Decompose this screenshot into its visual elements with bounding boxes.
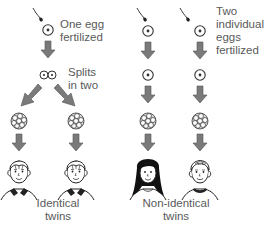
nonidentical-sperm-left-icon bbox=[137, 8, 148, 22]
nonidentical-cluster-right-icon bbox=[192, 113, 208, 129]
nonidentical-cell-right-icon bbox=[195, 70, 205, 80]
label-identical-twins: Identical twins bbox=[18, 197, 98, 223]
label-line: Non-identical bbox=[134, 197, 218, 210]
label-line: in two bbox=[68, 79, 98, 92]
nonidentical-arrow-3-left-icon bbox=[141, 134, 155, 151]
nonidentical-arrow-1-right-icon bbox=[193, 42, 207, 59]
identical-cluster-right-icon bbox=[68, 113, 84, 129]
nonidentical-arrow-3-right-icon bbox=[193, 134, 207, 151]
label-one-egg-fertilized: One egg fertilized bbox=[60, 18, 104, 44]
label-line: twins bbox=[18, 210, 98, 223]
nonidentical-cell-left-icon bbox=[143, 70, 153, 80]
identical-arrow-1-icon bbox=[41, 41, 55, 58]
identical-arrow-right-icon bbox=[69, 134, 83, 151]
identical-twin-right-icon bbox=[58, 161, 94, 200]
nonidentical-egg-left-icon bbox=[143, 26, 153, 36]
label-line: eggs bbox=[216, 31, 264, 44]
nonidentical-twin-boy-icon bbox=[182, 161, 218, 200]
nonidentical-cluster-left-icon bbox=[140, 113, 156, 129]
split-arrow-left-icon bbox=[21, 84, 42, 106]
identical-egg-icon bbox=[43, 25, 53, 35]
label-line: twins bbox=[134, 210, 218, 223]
label-splits-in-two: Splits in two bbox=[68, 66, 98, 92]
label-line: fertilized bbox=[216, 44, 264, 57]
nonidentical-arrow-1-left-icon bbox=[141, 42, 155, 59]
nonidentical-arrow-2-right-icon bbox=[193, 86, 207, 103]
label-line: fertilized bbox=[60, 31, 104, 44]
identical-twin-left-icon bbox=[1, 161, 37, 200]
nonidentical-arrow-2-left-icon bbox=[141, 86, 155, 103]
label-line: One egg bbox=[60, 18, 104, 31]
label-line: Identical bbox=[18, 197, 98, 210]
nonidentical-egg-right-icon bbox=[195, 26, 205, 36]
identical-sperm-icon bbox=[33, 8, 44, 22]
label-nonidentical-twins: Non-identical twins bbox=[134, 197, 218, 223]
nonidentical-twin-girl-icon bbox=[130, 159, 166, 200]
label-line: Two bbox=[216, 5, 264, 18]
label-line: Splits bbox=[68, 66, 98, 79]
label-two-eggs-fertilized: Two individual eggs fertilized bbox=[216, 5, 264, 57]
nonidentical-sperm-right-icon bbox=[180, 8, 191, 22]
identical-arrow-left-icon bbox=[12, 134, 26, 151]
identical-cluster-left-icon bbox=[11, 113, 27, 129]
label-line: individual bbox=[216, 18, 264, 31]
split-egg-icon bbox=[40, 71, 56, 79]
